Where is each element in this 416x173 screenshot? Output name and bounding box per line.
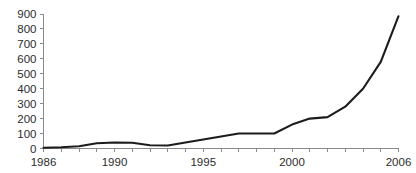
y-tick-label: 800 [17, 23, 36, 35]
x-tick-label: 2000 [279, 156, 305, 168]
y-tick-label: 700 [17, 38, 36, 50]
x-tick-label: 1995 [190, 156, 216, 168]
data-series-group [44, 16, 399, 148]
y-tick-label: 200 [17, 113, 36, 125]
y-tick-label: 600 [17, 53, 36, 65]
y-tick-label: 900 [17, 8, 36, 20]
y-axis: 0100200300400500600700800900 [17, 8, 43, 155]
chart-canvas: 0100200300400500600700800900 19861990199… [0, 0, 416, 173]
x-tick-label: 2006 [386, 156, 412, 168]
line-chart: 0100200300400500600700800900 19861990199… [0, 0, 416, 173]
y-tick-label: 500 [17, 68, 36, 80]
x-tick-label: 1990 [102, 156, 128, 168]
y-tick-label: 400 [17, 83, 36, 95]
y-tick-label: 0 [30, 143, 36, 155]
x-tick-label: 1986 [31, 156, 57, 168]
y-tick-label: 100 [17, 128, 36, 140]
data-line [44, 16, 399, 148]
y-tick-label: 300 [17, 98, 36, 110]
x-axis: 19861990199520002006 [31, 149, 412, 168]
